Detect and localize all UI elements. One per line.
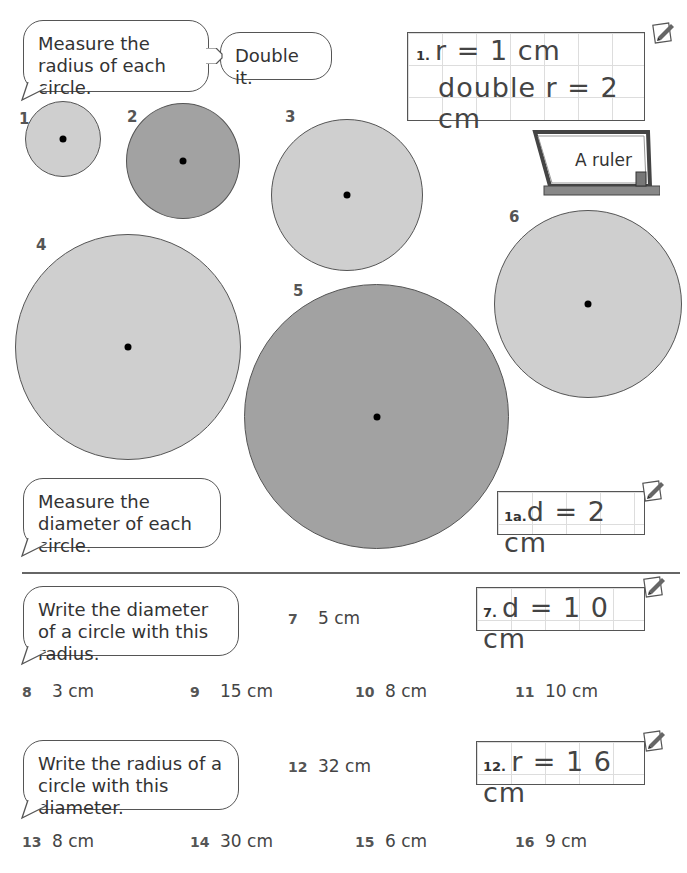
question-12: 1232 cm: [288, 756, 371, 776]
instruction-bubble-radius: Measure the radius of each circle.: [23, 20, 209, 92]
circle-1: [25, 101, 101, 177]
instruction-bubble-diameter: Measure the diameter of each circle.: [23, 478, 221, 548]
circle-6: [494, 210, 682, 398]
tip-text: A ruler: [575, 150, 632, 170]
circle-number: 4: [36, 236, 46, 254]
question-14: 1430 cm: [190, 831, 273, 851]
instruction-text: Measure the diameter of each circle.: [38, 491, 192, 556]
example-answer-box: 1. r = 1 cm double r = 2 cm: [407, 32, 645, 121]
pencil-icon: [643, 728, 667, 754]
center-point: [344, 192, 351, 199]
example-answer: d = 1 0 cm: [483, 592, 609, 654]
circle-number: 6: [509, 208, 519, 226]
circle-3: [271, 119, 423, 271]
circle-2: [126, 103, 240, 219]
question-16: 169 cm: [515, 831, 587, 851]
question-7: 75 cm: [288, 608, 360, 628]
pencil-icon: [652, 20, 676, 46]
circle-number: 5: [293, 282, 303, 300]
instruction-bubble-double: Double it.: [220, 32, 332, 80]
center-point: [60, 136, 67, 143]
example-label: 1.: [416, 48, 430, 63]
example-answer: d = 2 cm: [504, 496, 606, 558]
example-diameter-answer-box: 7. d = 1 0 cm: [476, 587, 645, 631]
question-11: 1110 cm: [515, 681, 598, 701]
example-line-1: r = 1 cm: [435, 35, 561, 66]
example-label: 1a.: [504, 509, 527, 524]
instruction-bubble-radius-to-diameter: Write the diameter of a circle with this…: [23, 586, 239, 656]
circle-number: 3: [285, 108, 295, 126]
instruction-bubble-diameter-to-radius: Write the radius of a circle with this d…: [23, 740, 239, 810]
pencil-icon: [643, 574, 667, 600]
bubble-tail-icon: [20, 538, 50, 558]
center-point: [125, 344, 132, 351]
question-15: 156 cm: [355, 831, 427, 851]
example-diameter-box: 1a.d = 2 cm: [497, 491, 645, 535]
question-8: 83 cm: [22, 681, 94, 701]
bubble-tail-icon: [20, 82, 50, 102]
example-line-2: double r = 2 cm: [438, 72, 619, 134]
center-point: [180, 158, 187, 165]
instruction-text: Measure the radius of each circle.: [38, 33, 166, 98]
bubble-tail-icon: [20, 646, 50, 666]
center-point: [373, 413, 380, 420]
bubble-tail-icon: [20, 800, 50, 820]
circle-5: [244, 284, 509, 549]
instruction-text: Write the diameter of a circle with this…: [38, 599, 208, 664]
example-answer: r = 1 6 cm: [483, 746, 612, 808]
instruction-text: Write the radius of a circle with this d…: [38, 753, 222, 818]
example-label: 7.: [483, 605, 497, 620]
circle-number: 2: [127, 108, 137, 126]
example-radius-answer-box: 12. r = 1 6 cm: [476, 741, 645, 785]
section-divider: [22, 572, 680, 574]
bubble-connector-icon: [206, 48, 224, 64]
instruction-text: Double it.: [235, 45, 299, 88]
pencil-icon: [642, 478, 666, 504]
example-label: 12.: [483, 759, 506, 774]
circle-4: [15, 234, 241, 460]
question-13: 138 cm: [22, 831, 94, 851]
question-9: 915 cm: [190, 681, 273, 701]
center-point: [585, 301, 592, 308]
question-10: 108 cm: [355, 681, 427, 701]
